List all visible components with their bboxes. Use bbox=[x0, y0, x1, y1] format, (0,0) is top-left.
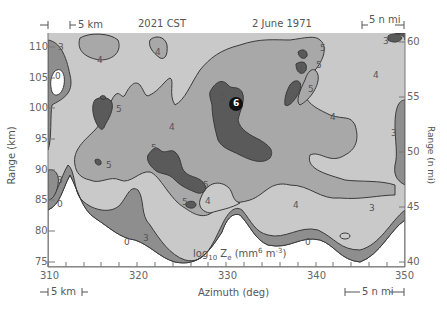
y-right-tick-label: 55 bbox=[407, 91, 420, 102]
contour-label: 0 bbox=[305, 237, 311, 247]
contour-label: 3 bbox=[383, 36, 389, 46]
contour-label: 4 bbox=[373, 70, 379, 80]
x-tick-label: 350 bbox=[395, 270, 414, 281]
annotation-units-mid: m bbox=[263, 248, 276, 259]
y-tick-label: 95 bbox=[35, 133, 48, 144]
y-right-tick-label: 40 bbox=[407, 256, 420, 267]
contour-label: 0 bbox=[55, 71, 61, 81]
y-axis-label-left: Range (km) bbox=[6, 126, 17, 184]
contour-label: 4 bbox=[298, 65, 304, 75]
contour-label: 5 bbox=[316, 60, 322, 70]
scale-bar-km-bottom: 5 km bbox=[51, 286, 76, 297]
y-tick-label: 90 bbox=[35, 164, 48, 175]
contour-label: 3 bbox=[391, 128, 397, 138]
contour-label: 3 bbox=[57, 175, 63, 185]
y-tick-label: 105 bbox=[29, 72, 48, 83]
scale-bar-km-top: 5 km bbox=[78, 19, 103, 30]
annotation-sub: 10 bbox=[208, 254, 217, 262]
contour-label: 5 bbox=[182, 197, 188, 207]
chart-date-label: 2 June 1971 bbox=[252, 18, 312, 29]
y-right-tick-label: 60 bbox=[407, 36, 420, 47]
contour-label: 4 bbox=[155, 47, 161, 57]
contour-label-peak: 6 bbox=[233, 98, 239, 108]
x-tick-label: 320 bbox=[129, 270, 148, 281]
y-tick-label: 100 bbox=[29, 102, 48, 113]
contour-label: 5 bbox=[320, 43, 326, 53]
contour-label: 5 bbox=[203, 180, 209, 190]
x-tick-label: 310 bbox=[40, 270, 59, 281]
contour-label: 5 bbox=[106, 160, 112, 170]
chart-time-label: 2021 CST bbox=[138, 18, 186, 29]
contour-label: 5 bbox=[308, 84, 314, 94]
contour-label: 4 bbox=[97, 55, 103, 65]
contour-label: 5 bbox=[151, 143, 157, 153]
contour-quantity-annotation: log10 Ze (mm6 m-3) bbox=[193, 247, 286, 262]
scale-bar-nmi-bottom: 5 n mi bbox=[362, 286, 394, 297]
contour-label: 5 bbox=[116, 104, 122, 114]
contour-label: 4 bbox=[293, 200, 299, 210]
y-tick-label: 85 bbox=[35, 194, 48, 205]
contour-label: 3 bbox=[143, 233, 149, 243]
contour-label: 4 bbox=[169, 122, 175, 132]
contour-label: 3 bbox=[369, 203, 375, 213]
contour-label: 4 bbox=[205, 196, 211, 206]
annotation-units-post: ) bbox=[282, 248, 286, 259]
x-axis-label: Azimuth (deg) bbox=[198, 287, 269, 298]
contour-label: 0 bbox=[124, 237, 130, 247]
y-right-tick-label: 50 bbox=[407, 146, 420, 157]
y-tick-label: 110 bbox=[29, 41, 48, 52]
y-right-tick-label: 45 bbox=[407, 201, 420, 212]
y-tick-label: 75 bbox=[35, 256, 48, 267]
contour-label: 4 bbox=[330, 112, 336, 122]
scale-bar-nmi-top: 5 n mi bbox=[369, 14, 401, 25]
annotation-log: log bbox=[193, 248, 208, 259]
y-tick-label: 80 bbox=[35, 225, 48, 236]
contour-label: 5 bbox=[220, 92, 226, 102]
contour-label: 3 bbox=[58, 42, 64, 52]
annotation-zsub: e bbox=[227, 254, 231, 262]
y-axis-label-right: Range (n mi) bbox=[426, 126, 436, 184]
contour-label: 0 bbox=[57, 199, 63, 209]
annotation-units: (mm bbox=[235, 248, 258, 259]
x-tick-label: 340 bbox=[307, 270, 326, 281]
x-tick-label: 330 bbox=[218, 270, 237, 281]
